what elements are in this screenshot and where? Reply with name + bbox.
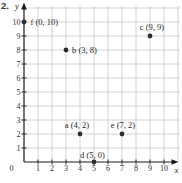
y-tick-label: 2: [17, 130, 21, 139]
data-point-b: [64, 48, 69, 53]
x-axis-label: x: [174, 165, 179, 175]
x-tick-label: 9: [148, 164, 152, 173]
x-tick-label: 1: [36, 164, 40, 173]
worksheet-page: 2. 01234567891012345678910yxf (0, 10)b (…: [0, 0, 182, 183]
y-tick-label: 7: [17, 60, 21, 69]
x-tick-label: 8: [134, 164, 138, 173]
y-tick-label: 10: [13, 18, 21, 27]
x-tick-label: 4: [78, 164, 82, 173]
y-tick-label: 9: [17, 32, 21, 41]
y-tick-label: 3: [17, 116, 21, 125]
data-point-e: [120, 132, 125, 137]
data-point-a: [78, 132, 83, 137]
point-label-a: a (4, 2): [65, 120, 89, 130]
point-label-d: d (5, 0): [80, 150, 105, 160]
x-tick-label: 2: [50, 164, 54, 173]
point-label-e: e (7, 2): [111, 120, 135, 130]
y-axis-label: y: [14, 1, 19, 11]
y-tick-label: 6: [17, 74, 21, 83]
x-tick-label: 6: [106, 164, 110, 173]
y-tick-label: 4: [17, 102, 21, 111]
x-tick-label: 5: [92, 164, 96, 173]
y-axis-arrow: [21, 3, 27, 10]
data-point-f: [22, 20, 27, 25]
y-tick-label: 8: [17, 46, 21, 55]
x-tick-label: 0: [10, 164, 14, 173]
data-point-c: [148, 34, 153, 39]
point-label-b: b (3, 8): [72, 45, 97, 55]
x-tick-label: 7: [120, 164, 124, 173]
data-point-d: [92, 160, 97, 165]
x-tick-label: 3: [64, 164, 68, 173]
y-tick-label: 5: [17, 88, 21, 97]
x-tick-label: 10: [160, 164, 168, 173]
y-tick-label: 1: [17, 144, 21, 153]
coordinate-plane: 01234567891012345678910yxf (0, 10)b (3, …: [0, 0, 182, 183]
point-label-f: f (0, 10): [31, 17, 59, 27]
point-label-c: c (9, 9): [140, 22, 164, 32]
